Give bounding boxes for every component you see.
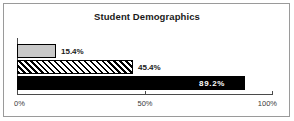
bar-1: [17, 44, 56, 58]
x-axis-tick-100: [272, 91, 273, 95]
x-axis-tick-label-0: 0%: [14, 99, 25, 108]
bar-row-1: 15.4%: [17, 44, 273, 58]
bar-2-value-label: 45.4%: [138, 63, 161, 72]
x-axis-tick-label-100: 100%: [258, 99, 277, 108]
x-axis-tick-50: [145, 91, 146, 95]
bar-row-2: 45.4%: [17, 60, 273, 74]
bar-row-3: 89.2%: [17, 76, 273, 90]
x-axis-tick-0: [17, 91, 18, 95]
bar-3-value-label: 89.2%: [199, 79, 225, 88]
bar-2: [17, 60, 133, 74]
x-axis-tick-label-50: 50%: [137, 99, 152, 108]
chart-container: Student Demographics 15.4% 45.4% 89.2% 0…: [0, 0, 294, 121]
bar-1-value-label: 15.4%: [61, 47, 84, 56]
chart-title: Student Demographics: [0, 11, 294, 22]
